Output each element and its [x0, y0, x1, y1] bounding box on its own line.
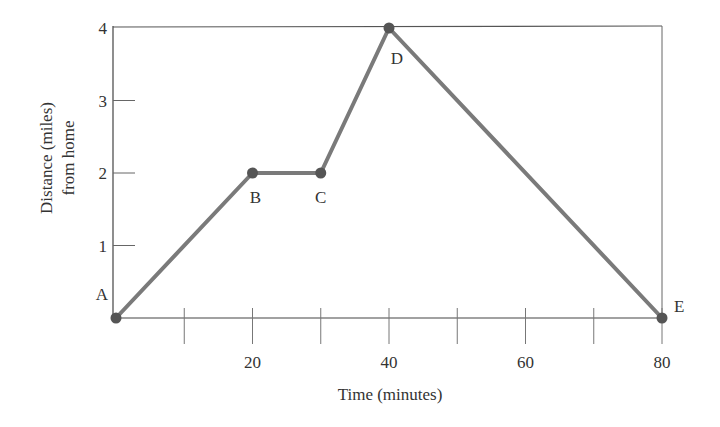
plot-frame	[113, 26, 662, 318]
point-label-d: D	[391, 49, 403, 68]
point-label-e: E	[674, 297, 684, 316]
point-label-c: C	[315, 188, 326, 207]
y-tick-label: 4	[99, 19, 108, 38]
y-axis-title: Distance (miles) from home	[37, 102, 78, 214]
point-marker-a	[111, 313, 122, 324]
y-tick-label: 3	[99, 92, 108, 111]
y-tick-label: 1	[99, 237, 108, 256]
point-label-a: A	[96, 285, 109, 304]
distance-time-chart: 1234 20406080 Distance (miles) from home…	[0, 0, 720, 427]
y-axis-title-line-1: Distance (miles)	[37, 102, 56, 214]
point-marker-e	[657, 313, 668, 324]
distance-line	[116, 28, 662, 318]
y-axis-ticks: 1234	[99, 19, 136, 256]
point-label-b: B	[250, 188, 261, 207]
y-tick-label: 2	[99, 164, 108, 183]
y-axis-title-line-2: from home	[59, 120, 78, 195]
point-marker-c	[315, 168, 326, 179]
x-tick-label: 20	[244, 353, 261, 372]
x-tick-label: 60	[517, 353, 534, 372]
x-axis-title: Time (minutes)	[338, 385, 443, 404]
distance-series: ABCDE	[96, 23, 685, 324]
x-tick-label: 40	[381, 353, 398, 372]
point-marker-d	[384, 23, 395, 34]
x-tick-label: 80	[654, 353, 671, 372]
point-marker-b	[247, 168, 258, 179]
